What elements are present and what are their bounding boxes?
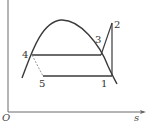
point-label-2: 2 xyxy=(114,19,120,30)
point-label-3: 3 xyxy=(95,34,101,45)
point-label-1: 1 xyxy=(101,78,107,89)
x-axis-label: s xyxy=(134,112,139,123)
line-4-5-dashed xyxy=(32,55,43,76)
origin-label: O xyxy=(2,112,10,123)
saturation-dome xyxy=(22,20,117,84)
point-label-4: 4 xyxy=(22,49,28,60)
point-label-5: 5 xyxy=(39,78,45,89)
t-s-diagram: O s 1 2 3 4 5 xyxy=(0,0,154,129)
line-3-2 xyxy=(101,23,112,55)
